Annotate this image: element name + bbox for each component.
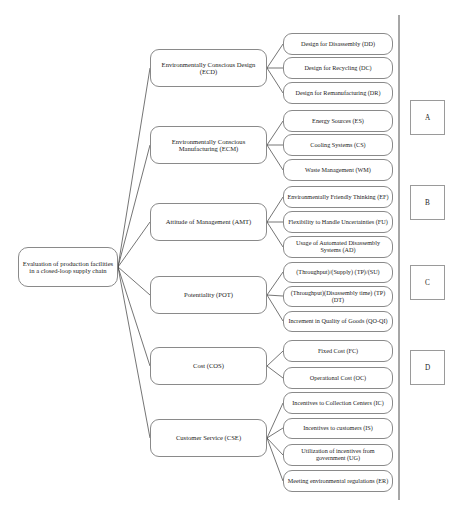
leaf-node-tpdt[interactable]: (Throughput)(Disassembly time) (TP)(DT) bbox=[283, 286, 393, 307]
branch-label-pot: Potentiality (POT) bbox=[184, 291, 233, 298]
edge-cos-oc bbox=[267, 366, 283, 378]
leaf-node-dr[interactable]: Design for Remanufacturing (DR) bbox=[283, 82, 393, 104]
leaf-node-fu[interactable]: Flexibility to Handle Uncertainties (FU) bbox=[283, 211, 393, 233]
edge-ecd-dd bbox=[267, 44, 283, 68]
leaf-label-es: Energy Sources (ES) bbox=[312, 118, 364, 125]
alternative-box-d[interactable]: D bbox=[410, 350, 445, 385]
edge-amt-ef bbox=[267, 197, 283, 222]
leaf-label-ad: Usage of Automated Disassembly Systems (… bbox=[287, 240, 389, 254]
leaf-label-dd: Design for Disassembly (DD) bbox=[301, 41, 375, 48]
edge-cse-is bbox=[267, 428, 283, 438]
branch-node-ecd[interactable]: Environmentally Conscious Design (ECD) bbox=[150, 49, 267, 87]
leaf-label-wm: Waste Management (WM) bbox=[305, 167, 371, 174]
edge-ecm-wm bbox=[267, 145, 283, 170]
leaf-node-is[interactable]: Incentives to customers (IS) bbox=[283, 418, 393, 439]
leaf-node-ic[interactable]: Incentives to Collection Centers (IC) bbox=[283, 392, 393, 414]
branch-node-amt[interactable]: Attitude of Management (AMT) bbox=[150, 203, 267, 241]
root-node[interactable]: Evaluation of production facilities in a… bbox=[18, 247, 118, 287]
leaf-label-tpdt: (Throughput)(Disassembly time) (TP)(DT) bbox=[287, 290, 389, 304]
branch-label-amt: Attitude of Management (AMT) bbox=[166, 218, 252, 225]
leaf-label-oc: Operational Cost (OC) bbox=[310, 375, 366, 382]
leaf-label-fc: Fixed Cost (FC) bbox=[318, 348, 358, 355]
leaf-node-tpsu[interactable]: (Throughput)/(Supply) (TP)/(SU) bbox=[283, 262, 393, 283]
branch-node-ecm[interactable]: Environmentally Conscious Manufacturing … bbox=[150, 126, 267, 164]
branch-label-cos: Cost (COS) bbox=[193, 362, 224, 369]
branch-node-pot[interactable]: Potentiality (POT) bbox=[150, 276, 267, 314]
edge-cos-fc bbox=[267, 351, 283, 366]
root-node-label: Evaluation of production facilities in a… bbox=[22, 260, 114, 275]
alternative-label-b: B bbox=[425, 199, 430, 207]
alternative-label-a: A bbox=[425, 114, 430, 122]
edge-amt-ad bbox=[267, 222, 283, 247]
edge-root-cse bbox=[118, 267, 150, 438]
edge-pot-tpsu bbox=[267, 272, 283, 295]
edge-root-ecm bbox=[118, 145, 150, 267]
alternative-box-b[interactable]: B bbox=[410, 185, 445, 220]
hierarchy-diagram: Evaluation of production facilities in a… bbox=[0, 0, 463, 527]
edge-ecm-es bbox=[267, 121, 283, 145]
branch-node-cse[interactable]: Customer Service (CSE) bbox=[150, 419, 267, 457]
leaf-node-er[interactable]: Meeting environmental regulations (ER) bbox=[283, 470, 393, 492]
edge-ecd-dr bbox=[267, 68, 283, 93]
branch-label-cse: Customer Service (CSE) bbox=[176, 434, 241, 441]
branch-label-ecd: Environmentally Conscious Design (ECD) bbox=[154, 61, 263, 76]
leaf-node-wm[interactable]: Waste Management (WM) bbox=[283, 159, 393, 181]
leaf-node-cs[interactable]: Cooling Systems (CS) bbox=[283, 134, 393, 156]
leaf-label-qoqi: Increment in Quality of Goods (QO-QI) bbox=[288, 318, 387, 325]
leaf-node-oc[interactable]: Operational Cost (OC) bbox=[283, 367, 393, 389]
alternative-box-a[interactable]: A bbox=[410, 100, 445, 135]
leaf-node-ad[interactable]: Usage of Automated Disassembly Systems (… bbox=[283, 236, 393, 258]
leaf-node-ef[interactable]: Environmentally Friendly Thinking (EF) bbox=[283, 186, 393, 208]
leaf-node-ug[interactable]: Utilization of incentives from governmen… bbox=[283, 444, 393, 466]
edge-cse-er bbox=[267, 438, 283, 481]
edge-pot-qoqi bbox=[267, 295, 283, 321]
edge-cse-ic bbox=[267, 403, 283, 438]
leaf-label-cs: Cooling Systems (CS) bbox=[310, 142, 365, 149]
leaf-label-ic: Incentives to Collection Centers (IC) bbox=[292, 400, 383, 407]
alternative-label-c: C bbox=[425, 279, 430, 287]
leaf-node-qoqi[interactable]: Increment in Quality of Goods (QO-QI) bbox=[283, 311, 393, 332]
leaf-node-es[interactable]: Energy Sources (ES) bbox=[283, 110, 393, 132]
leaf-node-dd[interactable]: Design for Disassembly (DD) bbox=[283, 33, 393, 55]
leaf-label-tpsu: (Throughput)/(Supply) (TP)/(SU) bbox=[296, 269, 379, 276]
edge-cse-ug bbox=[267, 438, 283, 455]
leaf-label-ef: Environmentally Friendly Thinking (EF) bbox=[287, 194, 388, 201]
branch-node-cos[interactable]: Cost (COS) bbox=[150, 347, 267, 385]
leaf-label-dc: Design for Recycling (DC) bbox=[304, 65, 371, 72]
branch-label-ecm: Environmentally Conscious Manufacturing … bbox=[154, 138, 263, 153]
edge-root-pot bbox=[118, 267, 150, 295]
leaf-label-is: Incentives to customers (IS) bbox=[303, 425, 373, 432]
leaf-label-dr: Design for Remanufacturing (DR) bbox=[295, 90, 380, 97]
leaf-label-fu: Flexibility to Handle Uncertainties (FU) bbox=[288, 219, 388, 226]
edge-root-cos bbox=[118, 267, 150, 366]
leaf-node-dc[interactable]: Design for Recycling (DC) bbox=[283, 57, 393, 79]
leaf-node-fc[interactable]: Fixed Cost (FC) bbox=[283, 340, 393, 362]
edge-pot-tpdt bbox=[267, 295, 283, 296]
alternative-box-c[interactable]: C bbox=[410, 265, 445, 300]
edge-root-ecd bbox=[118, 68, 150, 267]
alternative-label-d: D bbox=[425, 364, 430, 372]
leaf-label-er: Meeting environmental regulations (ER) bbox=[288, 478, 389, 485]
edge-root-amt bbox=[118, 222, 150, 267]
leaf-label-ug: Utilization of incentives from governmen… bbox=[287, 448, 389, 462]
